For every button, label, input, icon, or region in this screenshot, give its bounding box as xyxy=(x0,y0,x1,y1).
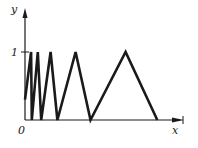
origin-label: 0 xyxy=(18,125,25,136)
y-axis-label: y xyxy=(11,4,17,15)
triangle-wave-line xyxy=(25,52,157,120)
x-axis-label: x xyxy=(172,125,178,136)
x-axis-arrow-icon xyxy=(172,118,184,123)
y-tick-label-1: 1 xyxy=(11,47,18,58)
y-axis-arrow-icon xyxy=(23,8,28,18)
chart-plot xyxy=(0,0,198,148)
